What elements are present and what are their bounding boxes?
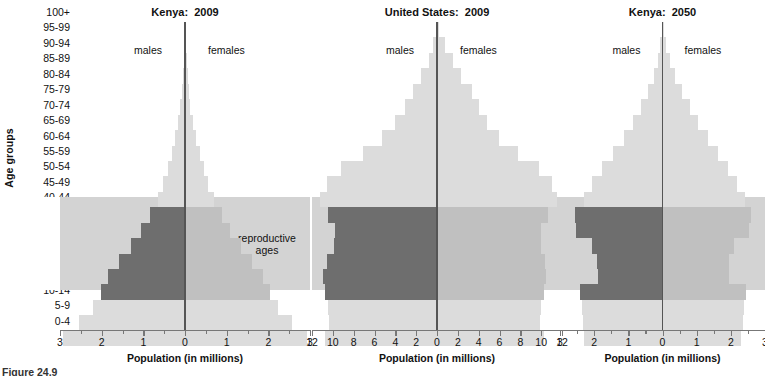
x-axis-title: Population (in millions) [312,352,562,364]
bar-males [168,161,185,176]
x-tick-label: 3 [557,336,563,348]
x-axis-minor-tick [164,330,165,334]
bar-females [437,53,453,68]
x-tick-label: 0 [660,336,666,348]
bar-females [185,284,270,299]
x-axis-minor-tick [123,330,124,334]
bar-females [663,146,718,161]
panel-title: Kenya: 2050 [560,6,765,18]
panel-title: United States: 2009 [312,6,562,18]
bar-females [437,115,487,130]
y-axis-title: Age groups [3,123,15,193]
bar-males [335,223,437,238]
bar-females [437,207,548,222]
x-tick-label: 2 [413,336,419,348]
x-tick-label: 2 [455,336,461,348]
x-tick-label: 2 [728,336,734,348]
bar-females [663,284,746,299]
bar-males [576,223,662,238]
bar-males [172,146,185,161]
x-tick-label: 6 [497,336,503,348]
bar-males [79,315,185,330]
center-axis-line [436,22,437,330]
bar-females [185,130,196,145]
bar-females [437,192,557,207]
bar-males [158,192,186,207]
x-tick-label: 3 [57,336,63,348]
bar-females [185,192,214,207]
x-tick-label: 6 [372,336,378,348]
bar-males [325,284,437,299]
bar-females [663,161,729,176]
bar-males [119,254,185,269]
bar-males [108,269,185,284]
bar-females [437,146,518,161]
bar-females [185,115,193,130]
bar-males [320,192,437,207]
bar-males [624,130,663,145]
bar-males [602,161,662,176]
bar-females [437,269,546,284]
bar-males [405,99,437,114]
x-tick-label: 2 [265,336,271,348]
bar-males [363,146,437,161]
x-tick-label-row: 12108642024681012 [312,336,562,350]
pyramid-panel: Kenya: 2009malesfemales3210123Population… [60,0,310,376]
x-tick-label: 8 [517,336,523,348]
bar-females [437,176,552,191]
bar-males [93,300,186,315]
x-tick-label: 12 [306,336,318,348]
population-pyramid-figure: Age groups 100+95-9990-9485-8980-8475-79… [0,0,765,376]
bar-females [663,68,676,83]
figure-caption: Figure 24.9 [2,366,57,376]
bar-females [185,300,278,315]
bar-males [141,223,185,238]
bar-females [437,99,479,114]
bar-females [185,238,241,253]
x-axis-minor-tick [206,330,207,334]
bar-females [663,315,743,330]
x-axis-title: Population (in millions) [60,352,310,364]
x-tick-label: 1 [694,336,700,348]
bar-males [583,315,663,330]
bar-males [382,130,437,145]
bar-females [663,300,744,315]
bar-females [437,37,445,52]
bar-females [437,300,541,315]
x-axis-minor-tick [714,330,715,334]
bar-females [185,315,292,330]
bar-females [185,146,200,161]
x-axis-minor-tick [248,330,249,334]
bar-females [663,99,690,114]
bar-females [437,130,499,145]
x-tick-label: 0 [434,336,440,348]
band-gap-mask [22,197,60,290]
x-tick-label-row: 3210123 [560,336,765,350]
bar-females [437,68,461,83]
band-gap-mask [310,197,312,290]
x-axis-minor-tick [645,330,646,334]
center-axis-line [184,22,185,330]
panel-title: Kenya: 2009 [60,6,310,18]
bar-females [437,84,472,99]
bar-males [648,84,662,99]
bar-females [185,176,208,191]
bar-males [598,269,663,284]
bar-females [663,192,745,207]
pyramid-panel: United States: 2009malesfemales121086420… [312,0,562,376]
bar-males [327,254,437,269]
x-axis-minor-tick [577,330,578,334]
bar-females [663,254,730,269]
bar-males [641,99,662,114]
bar-females [185,223,230,238]
bar-females [185,207,222,222]
bar-males [101,284,185,299]
bar-males [131,238,185,253]
bar-females [663,176,737,191]
bar-females [663,238,735,253]
x-tick-label: 2 [99,336,105,348]
x-axis-minor-tick [611,330,612,334]
x-axis-minor-tick [748,330,749,334]
x-axis-title: Population (in millions) [560,352,765,364]
bar-males [592,176,662,191]
